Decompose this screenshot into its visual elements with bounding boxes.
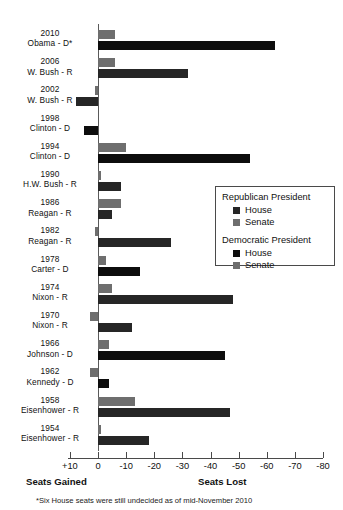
- x-axis-tick: [323, 452, 324, 458]
- row-label-year: 1986: [7, 197, 93, 207]
- row-label: 1986Reagan - R: [7, 197, 93, 218]
- row-label-president: H.W. Bush - R: [7, 179, 93, 189]
- row-label-year: 1982: [7, 225, 93, 235]
- bar-senate: [98, 425, 101, 434]
- row-label-president: W. Bush - R: [7, 67, 93, 77]
- x-axis-tick: [182, 452, 183, 458]
- row-label-president: Nixon - R: [7, 292, 93, 302]
- row-label-year: 1998: [7, 113, 93, 123]
- legend-swatch-democratic-senate: [233, 262, 240, 269]
- row-label: 1966Johnson - D: [7, 338, 93, 359]
- x-axis-tick: [295, 452, 296, 458]
- x-axis-tick: [126, 452, 127, 458]
- row-label-president: Obama - D*: [7, 38, 93, 48]
- plot-area: 2010Obama - D*2006W. Bush - R2002W. Bush…: [0, 0, 343, 510]
- x-axis-tick: [70, 452, 71, 458]
- row-label-year: 1990: [7, 169, 93, 179]
- row-label: 1990H.W. Bush - R: [7, 169, 93, 190]
- legend-entry-democratic-senate: Senate: [222, 259, 328, 271]
- bar-senate: [98, 284, 112, 293]
- legend-entry-republican-senate: Senate: [222, 216, 328, 228]
- row-label-president: Clinton - D: [7, 151, 93, 161]
- bar-senate: [98, 58, 115, 67]
- row-label-year: 2002: [7, 84, 93, 94]
- row-label-president: Reagan - R: [7, 208, 93, 218]
- chart-legend: Republican President House Senate Democr…: [215, 186, 335, 266]
- row-label: 1974Nixon - R: [7, 282, 93, 303]
- legend-group-title-democratic: Democratic President: [222, 234, 328, 246]
- row-label-president: Reagan - R: [7, 236, 93, 246]
- row-label: 1970Nixon - R: [7, 310, 93, 331]
- bar-senate: [98, 340, 109, 349]
- bar-house: [98, 210, 112, 219]
- legend-label-democratic-senate: Senate: [245, 259, 274, 271]
- x-axis-tick: [211, 452, 212, 458]
- row-label-year: 1966: [7, 338, 93, 348]
- bar-house: [98, 267, 140, 276]
- legend-entry-republican-house: House: [222, 204, 328, 216]
- bar-senate: [98, 199, 121, 208]
- bar-house: [98, 351, 225, 360]
- bar-house: [98, 408, 230, 417]
- row-label: 1958Eisenhower - R: [7, 395, 93, 416]
- legend-label-republican-house: House: [245, 204, 272, 216]
- row-label-president: Kennedy - D: [7, 377, 93, 387]
- row-label-year: 1970: [7, 310, 93, 320]
- legend-group-title-republican: Republican President: [222, 191, 328, 203]
- x-axis-tick: [154, 452, 155, 458]
- row-label: 1954Eisenhower - R: [7, 423, 93, 444]
- x-axis-tick: [267, 452, 268, 458]
- x-axis-tick: [98, 452, 99, 458]
- bar-house: [98, 238, 171, 247]
- row-label-president: Eisenhower - R: [7, 433, 93, 443]
- bar-senate: [95, 227, 98, 236]
- bar-senate: [98, 171, 101, 180]
- bar-house: [98, 69, 188, 78]
- row-label: 1982Reagan - R: [7, 225, 93, 246]
- row-label: 2010Obama - D*: [7, 28, 93, 49]
- row-label-president: Johnson - D: [7, 349, 93, 359]
- row-label-year: 1962: [7, 366, 93, 376]
- x-axis-line: [68, 458, 323, 459]
- bar-house: [98, 295, 233, 304]
- legend-swatch-republican-house: [233, 207, 240, 214]
- axis-caption-seats-gained: Seats Gained: [26, 476, 87, 487]
- bar-senate: [95, 86, 98, 95]
- row-label-year: 1958: [7, 395, 93, 405]
- bar-house: [98, 182, 121, 191]
- bar-house: [98, 379, 109, 388]
- row-label: 1962Kennedy - D: [7, 366, 93, 387]
- row-label-president: Carter - D: [7, 264, 93, 274]
- row-label: 1994Clinton - D: [7, 141, 93, 162]
- bar-house: [98, 436, 149, 445]
- row-label: 2006W. Bush - R: [7, 56, 93, 77]
- bar-house: [84, 126, 98, 135]
- x-axis-tick-label: -80: [303, 461, 343, 471]
- legend-label-republican-senate: Senate: [245, 216, 274, 228]
- legend-entry-democratic-house: House: [222, 247, 328, 259]
- bar-senate: [90, 312, 98, 321]
- row-label-president: Clinton - D: [7, 123, 93, 133]
- row-label: 1978Carter - D: [7, 254, 93, 275]
- bar-senate: [98, 143, 126, 152]
- row-label-year: 1994: [7, 141, 93, 151]
- bar-house: [98, 41, 275, 50]
- row-label-year: 2006: [7, 56, 93, 66]
- legend-swatch-republican-senate: [233, 219, 240, 226]
- chart-root: 2010Obama - D*2006W. Bush - R2002W. Bush…: [0, 0, 343, 510]
- row-label-year: 1978: [7, 254, 93, 264]
- row-label-year: 1954: [7, 423, 93, 433]
- bar-house: [76, 97, 99, 106]
- bar-senate: [98, 256, 106, 265]
- bar-house: [98, 154, 250, 163]
- bar-senate: [98, 397, 135, 406]
- row-label-year: 2010: [7, 28, 93, 38]
- row-label-president: Eisenhower - R: [7, 405, 93, 415]
- row-label: 1998Clinton - D: [7, 113, 93, 134]
- row-label-year: 1974: [7, 282, 93, 292]
- bar-senate: [90, 368, 98, 377]
- axis-caption-seats-lost: Seats Lost: [198, 476, 247, 487]
- row-label-president: Nixon - R: [7, 320, 93, 330]
- x-axis-tick: [239, 452, 240, 458]
- legend-swatch-democratic-house: [233, 250, 240, 257]
